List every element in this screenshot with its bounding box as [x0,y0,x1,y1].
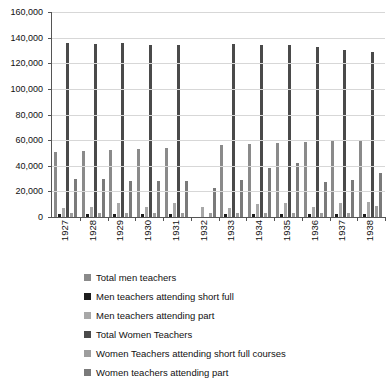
x-tick-label: 1934 [254,220,264,241]
y-tick-label: 160,000 [10,8,43,17]
x-label-cell: 1932 [190,220,218,264]
legend-label: Total men teachers [96,272,176,283]
y-tick-label: 140,000 [10,33,43,42]
gridline [52,63,385,64]
bar [70,213,73,217]
x-tick-label: 1935 [282,220,292,241]
bar [379,173,382,217]
bar [276,143,279,217]
legend-item: Total men teachers [84,268,384,287]
bar [117,203,120,217]
bar [339,203,342,217]
gridline [52,191,385,192]
gridline [52,89,385,90]
legend-swatch-icon [84,274,91,281]
bar [157,181,160,217]
bar [220,145,223,217]
bar [308,214,311,217]
plot-area [51,12,385,218]
bar [252,214,255,217]
x-tick-label: 1927 [60,220,70,241]
bar [236,213,239,217]
bar [82,151,85,217]
bar [137,149,140,217]
bar [102,179,105,217]
x-label-cell: 1935 [273,220,301,264]
bar [312,207,315,217]
y-tick-label: 100,000 [10,84,43,93]
gridline [52,12,385,13]
y-tick-label: 40,000 [15,161,43,170]
bar [181,213,184,217]
bar [256,204,259,217]
y-tick-label: 0 [38,213,43,222]
bar [209,213,212,217]
x-label-cell: 1936 [301,220,329,264]
bar [98,213,101,217]
x-label-cell: 1929 [107,220,135,264]
bar [280,214,283,217]
plot-wrapper: 160,000140,000120,000100,00080,00060,000… [0,0,392,232]
x-label-cell: 1938 [356,220,384,264]
x-label-cell: 1930 [134,220,162,264]
bar [264,213,267,217]
x-tick-label: 1928 [88,220,98,241]
x-label-cell: 1927 [51,220,79,264]
bar [240,180,243,217]
legend-item: Men teachers attending short full [84,287,384,306]
x-tick-label: 1933 [226,220,236,241]
x-label-cell: 1934 [245,220,273,264]
legend-label: Women teachers attending part [96,367,228,378]
bar [185,181,188,217]
y-tick-label: 20,000 [15,187,43,196]
bar [351,180,354,217]
bar [347,213,350,217]
gridline [52,140,385,141]
x-tick-label: 1929 [115,220,125,241]
y-axis: 160,000140,000120,000100,00080,00060,000… [0,0,47,232]
gridline [52,38,385,39]
x-label-cell: 1931 [162,220,190,264]
bar [201,207,204,217]
gridline [52,115,385,116]
y-tick-label: 80,000 [15,110,43,119]
legend-label: Men teachers attending short full [96,291,234,302]
y-tick-label: 60,000 [15,136,43,145]
x-tick-label: 1930 [143,220,153,241]
x-tick-label: 1937 [337,220,347,241]
x-tick-label: 1936 [310,220,320,241]
chart-legend: Total men teachersMen teachers attending… [84,268,384,382]
y-tick-label: 120,000 [10,59,43,68]
legend-swatch-icon [84,331,91,338]
bar [169,214,172,217]
bar [228,208,231,217]
bar [367,202,370,217]
legend-item: Men teachers attending part [84,306,384,325]
x-label-cell: 1937 [329,220,357,264]
bar [113,214,116,217]
bar [165,148,168,217]
legend-swatch-icon [84,350,91,357]
legend-swatch-icon [84,369,91,376]
bar [375,206,378,217]
x-axis: 1927192819291930193119321933193419351936… [51,220,384,264]
bar [74,179,77,217]
bar [62,208,65,217]
bar [335,214,338,217]
bar [224,214,227,217]
gridline [52,166,385,167]
bar [58,214,61,217]
legend-label: Women Teachers attending short full cour… [96,348,286,359]
legend-label: Total Women Teachers [96,329,192,340]
x-tick-label: 1932 [199,220,209,241]
bar [90,207,93,217]
bar [320,213,323,217]
x-label-cell: 1933 [218,220,246,264]
bar [129,181,132,217]
bar [363,214,366,217]
legend-item: Women teachers attending part [84,363,384,382]
x-tickmark [385,217,386,221]
bar [54,152,57,217]
bar [109,150,112,217]
legend-swatch-icon [84,312,91,319]
